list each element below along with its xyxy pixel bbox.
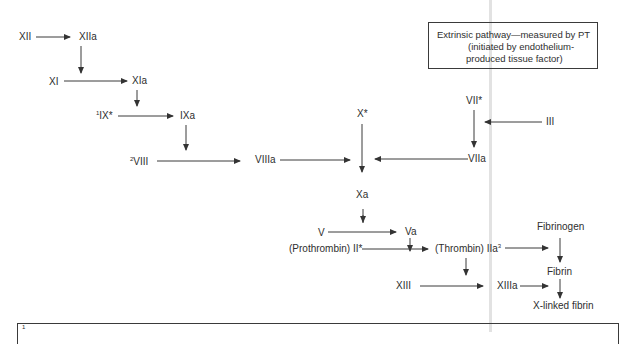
extrinsic-line-1: Extrinsic pathway—measured by PT <box>437 29 590 41</box>
node-xlinked-fibrin: X-linked fibrin <box>533 300 594 312</box>
node-ix: 1IX* <box>96 110 113 122</box>
node-viii: 2VIII <box>130 156 148 168</box>
node-xi: XI <box>49 76 58 88</box>
node-fibrinogen: Fibrinogen <box>537 221 584 233</box>
node-thrombin: (Thrombin) IIa3 <box>435 243 501 255</box>
node-xiiia: XIIIa <box>497 280 518 292</box>
node-prothrombin: (Prothrombin) II* <box>289 243 362 255</box>
node-iii: III <box>546 116 554 128</box>
node-va: Va <box>405 226 417 238</box>
footnote-box <box>17 323 619 344</box>
footnote-marker: 1 <box>22 323 25 331</box>
node-ixa: IXa <box>180 110 195 122</box>
node-v: V <box>318 227 325 239</box>
node-xiii: XIII <box>396 280 411 292</box>
node-viia: VIIa <box>468 153 486 165</box>
node-vii: VII* <box>466 95 482 107</box>
node-xia: XIa <box>132 75 147 87</box>
node-x: X* <box>357 108 368 120</box>
node-viiia: VIIIa <box>255 154 276 166</box>
extrinsic-line-3: produced tissue factor) <box>466 53 563 65</box>
node-xiia: XIIa <box>79 31 97 43</box>
node-xa: Xa <box>356 189 368 201</box>
extrinsic-line-2: (initiated by endothelium- <box>468 41 574 53</box>
node-xii: XII <box>19 31 31 43</box>
node-fibrin: Fibrin <box>547 266 572 278</box>
